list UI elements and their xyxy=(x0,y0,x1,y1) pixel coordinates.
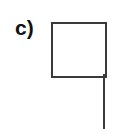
flag-square xyxy=(51,22,107,78)
flag-pole-line xyxy=(103,74,105,129)
figure-label: c) xyxy=(15,16,34,40)
